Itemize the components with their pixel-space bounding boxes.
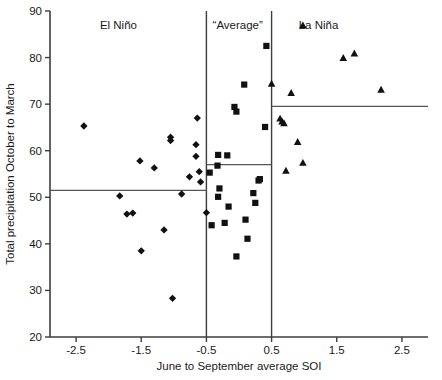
data-point-square — [224, 152, 230, 158]
x-tick-label: -1.5 — [131, 344, 151, 356]
y-tick-label: 80 — [29, 52, 42, 64]
data-point-diamond — [203, 209, 210, 216]
x-tick-label: 0.5 — [264, 344, 280, 356]
panel-label: El Niño — [100, 19, 137, 31]
data-point-square — [215, 152, 221, 158]
data-point-triangle — [287, 89, 295, 96]
data-point-diamond — [178, 190, 185, 197]
y-tick-label: 40 — [29, 238, 42, 250]
scatter-chart: 2030405060708090-2.5-1.5-0.50.51.52.5Jun… — [0, 0, 442, 380]
data-point-diamond — [194, 114, 201, 121]
data-point-diamond — [196, 168, 203, 175]
x-tick-label: 2.5 — [394, 344, 410, 356]
y-tick-label: 20 — [29, 331, 42, 343]
data-point-square — [241, 81, 247, 87]
data-point-triangle — [299, 159, 307, 166]
data-point-square — [215, 194, 221, 200]
x-tick-label: 1.5 — [329, 344, 345, 356]
data-point-square — [214, 163, 220, 169]
data-point-square — [233, 253, 239, 259]
data-point-triangle — [377, 86, 385, 93]
panel-label: “Average” — [213, 19, 263, 31]
data-point-triangle — [339, 54, 347, 61]
data-point-diamond — [197, 178, 204, 185]
data-point-square — [222, 220, 228, 226]
data-point-diamond — [129, 209, 136, 216]
data-point-square — [242, 217, 248, 223]
data-point-square — [233, 108, 239, 114]
y-tick-label: 30 — [29, 284, 42, 296]
x-tick-label: -0.5 — [196, 344, 216, 356]
data-point-diamond — [192, 153, 199, 160]
data-point-diamond — [138, 247, 145, 254]
series-el-niño — [80, 114, 210, 302]
data-point-square — [216, 185, 222, 191]
data-point-square — [263, 43, 269, 49]
data-point-diamond — [186, 173, 193, 180]
data-point-triangle — [294, 138, 302, 145]
data-point-square — [252, 200, 258, 206]
data-point-square — [250, 190, 256, 196]
data-point-diamond — [123, 210, 130, 217]
x-axis-title: June to September average SOI — [157, 360, 322, 372]
chart-canvas: 2030405060708090-2.5-1.5-0.50.51.52.5Jun… — [0, 0, 442, 380]
data-point-square — [209, 222, 215, 228]
data-point-diamond — [169, 295, 176, 302]
y-tick-label: 50 — [29, 191, 42, 203]
data-point-triangle — [268, 80, 276, 87]
data-point-diamond — [80, 122, 87, 129]
y-tick-label: 70 — [29, 98, 42, 110]
series-la-niña — [268, 49, 385, 173]
data-point-square — [225, 204, 231, 210]
data-point-diamond — [192, 141, 199, 148]
data-point-triangle — [351, 49, 359, 56]
data-point-diamond — [136, 157, 143, 164]
y-tick-label: 60 — [29, 145, 42, 157]
x-tick-label: -2.5 — [66, 344, 86, 356]
data-point-square — [207, 170, 213, 176]
series-average — [207, 43, 270, 260]
data-point-triangle — [282, 167, 290, 174]
data-point-diamond — [116, 192, 123, 199]
data-point-diamond — [151, 164, 158, 171]
y-tick-label: 90 — [29, 5, 42, 17]
y-axis-title: Total precipitation October to March — [4, 83, 16, 265]
data-point-diamond — [160, 226, 167, 233]
data-point-square — [257, 176, 263, 182]
data-point-square — [244, 236, 250, 242]
data-point-square — [262, 124, 268, 130]
